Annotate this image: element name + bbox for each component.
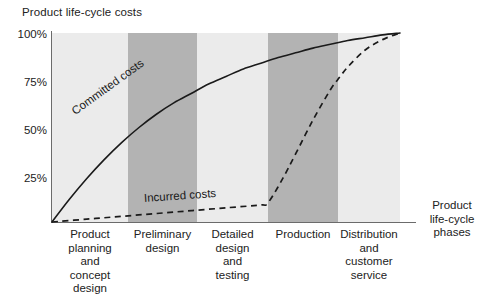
x-label-line: testing	[197, 269, 268, 283]
x-label-distribution: Distribution and customer service	[338, 228, 400, 282]
x-axis-title: Product life-cycle phases	[421, 199, 483, 240]
x-axis-title-line: phases	[421, 226, 483, 240]
x-label-line: and	[338, 242, 400, 256]
x-label-line: customer	[338, 255, 400, 269]
y-tick-label-25: 25%	[24, 172, 47, 184]
y-axis-ticks: 100% 75% 50% 25%	[0, 0, 47, 295]
x-axis-phase-labels: Product planning and concept design Prel…	[52, 228, 400, 292]
x-label-line: Preliminary	[128, 228, 197, 242]
x-label-detailed-design: Detailed design and testing	[197, 228, 268, 282]
x-label-line: concept	[52, 269, 128, 283]
x-label-production: Production	[268, 228, 338, 242]
y-tick-label-75: 75%	[24, 76, 47, 88]
x-label-line: and	[197, 255, 268, 269]
phase-band-distribution	[338, 33, 400, 222]
x-label-line: design	[52, 282, 128, 295]
plot-area	[52, 33, 400, 222]
y-axis-line	[51, 31, 52, 223]
x-axis-title-line: Product	[421, 199, 483, 213]
x-label-product-planning: Product planning and concept design	[52, 228, 128, 295]
x-label-line: service	[338, 269, 400, 283]
x-label-preliminary-design: Preliminary design	[128, 228, 197, 255]
x-label-line: design	[197, 242, 268, 256]
x-axis-title-line: life-cycle	[421, 213, 483, 227]
x-label-line: planning	[52, 242, 128, 256]
x-label-line: design	[128, 242, 197, 256]
y-tick-label-100: 100%	[18, 28, 47, 40]
x-label-line: Detailed	[197, 228, 268, 242]
x-label-line: Production	[268, 228, 338, 242]
x-axis-line	[51, 222, 416, 223]
phase-band-production	[268, 33, 338, 222]
y-tick-label-50: 50%	[24, 124, 47, 136]
x-label-line: and	[52, 255, 128, 269]
phase-band-product-planning	[52, 33, 128, 222]
x-label-line: Distribution	[338, 228, 400, 242]
x-label-line: Product	[52, 228, 128, 242]
chart-container: Product life-cycle costs 100% 75% 50% 25…	[0, 0, 484, 295]
